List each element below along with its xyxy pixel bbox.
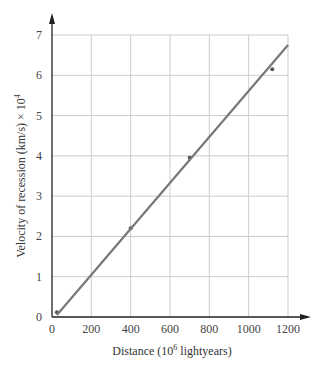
axes	[49, 13, 311, 320]
x-tick-label: 200	[82, 322, 100, 336]
x-axis-label: Distance (106 lightyears)	[112, 343, 231, 358]
y-tick-label: 1	[36, 270, 42, 284]
x-tick-label: 1200	[276, 322, 300, 336]
x-axis-arrow-icon	[300, 314, 311, 320]
x-tick-label: 400	[122, 322, 140, 336]
y-tick-label: 2	[36, 229, 42, 243]
y-tick-label: 4	[36, 149, 42, 163]
x-tick-label: 800	[200, 322, 218, 336]
y-tick-label: 7	[36, 28, 42, 42]
x-tick-label: 0	[49, 322, 55, 336]
data-point	[270, 67, 274, 71]
y-tick-label: 0	[36, 310, 42, 324]
x-tick-label: 600	[161, 322, 179, 336]
y-tick-label: 5	[36, 109, 42, 123]
chart: 02004006008001000120001234567 Distance (…	[0, 0, 323, 369]
plot-area	[55, 45, 288, 315]
grid	[52, 35, 288, 317]
tick-labels: 02004006008001000120001234567	[36, 28, 300, 336]
x-tick-label: 1000	[237, 322, 261, 336]
y-tick-label: 3	[36, 189, 42, 203]
y-axis-arrow-icon	[49, 13, 55, 24]
y-axis-label: Velocity of recession (km/s) × 104	[13, 94, 28, 258]
y-tick-label: 6	[36, 68, 42, 82]
